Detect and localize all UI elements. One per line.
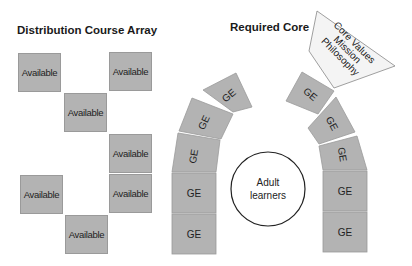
ge-label: GE	[187, 188, 202, 199]
ge-block: GE	[323, 212, 367, 252]
right-arch: GE GE GE GE GE	[286, 72, 367, 252]
circle-line-learners: learners	[250, 190, 286, 201]
required-core-diagram: GE GE GE GE GE GE GE GE	[0, 0, 412, 266]
ge-label: GE	[187, 229, 202, 240]
core-values-funnel: Core Values Mission Philosophy	[309, 11, 395, 88]
adult-learners-circle: Adult learners	[231, 152, 305, 226]
ge-block: GE	[172, 133, 220, 172]
circle-line-adult: Adult	[257, 177, 280, 188]
ge-block: GE	[172, 214, 216, 254]
ge-label: GE	[338, 227, 353, 238]
ge-block: GE	[172, 173, 216, 213]
ge-label: GE	[338, 186, 353, 197]
ge-block: GE	[323, 171, 367, 211]
left-arch: GE GE GE GE GE	[172, 73, 252, 254]
